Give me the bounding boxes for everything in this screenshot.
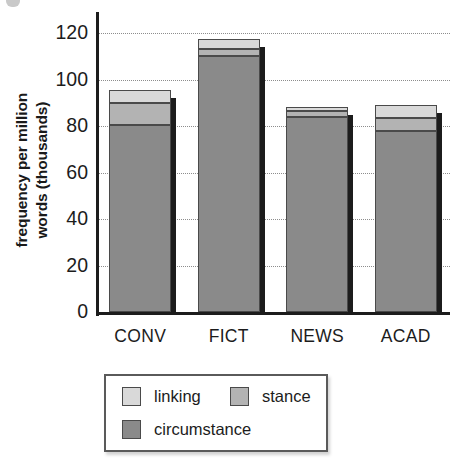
- y-tick-label-100: 100: [40, 70, 88, 90]
- legend-swatch-stance: [230, 387, 249, 406]
- y-tick-label-20: 20: [40, 256, 88, 276]
- bar-segment-conv-stance[interactable]: [109, 103, 171, 125]
- bar-segment-news-linking[interactable]: [286, 107, 348, 110]
- y-tick-label-80: 80: [40, 116, 88, 136]
- legend-item-stance[interactable]: stance: [230, 387, 311, 406]
- y-tick-label-40: 40: [40, 209, 88, 229]
- legend-item-circumstance[interactable]: circumstance: [122, 420, 251, 439]
- legend-label-linking: linking: [154, 387, 201, 406]
- bar-segment-fict-linking[interactable]: [198, 39, 260, 49]
- x-tick-label-fict: FICT: [185, 326, 274, 347]
- bar-segment-acad-stance[interactable]: [375, 118, 437, 131]
- bar-segment-news-stance[interactable]: [286, 111, 348, 117]
- bar-segment-fict-circumstance[interactable]: [198, 56, 260, 312]
- y-tick-label-120: 120: [40, 23, 88, 43]
- x-tick-label-news: NEWS: [273, 326, 362, 347]
- legend-swatch-circumstance: [122, 420, 141, 439]
- bar-segment-conv-circumstance[interactable]: [109, 125, 171, 312]
- x-axis-line: [96, 312, 450, 315]
- bar-segment-news-circumstance[interactable]: [286, 117, 348, 312]
- plot-area: 020406080100120 CONVFICTNEWSACAD: [96, 8, 450, 314]
- gridline-120: [99, 33, 450, 34]
- bar-segment-acad-linking[interactable]: [375, 105, 437, 118]
- legend-item-linking[interactable]: linking: [122, 387, 201, 406]
- bar-fict[interactable]: [198, 39, 260, 312]
- y-tick-label-0: 0: [40, 302, 88, 322]
- bar-segment-conv-linking[interactable]: [109, 90, 171, 103]
- bar-segment-fict-stance[interactable]: [198, 49, 260, 56]
- bar-acad[interactable]: [375, 105, 437, 312]
- x-tick-label-conv: CONV: [96, 326, 185, 347]
- chart-legend: linkingstancecircumstance: [104, 374, 328, 452]
- legend-label-stance: stance: [262, 387, 311, 406]
- bar-segment-acad-circumstance[interactable]: [375, 131, 437, 312]
- legend-label-circumstance: circumstance: [154, 420, 251, 439]
- gridline-100: [99, 80, 450, 81]
- legend-swatch-linking: [122, 387, 141, 406]
- chart-figure: frequency per million words (thousands) …: [0, 0, 454, 468]
- y-tick-label-60: 60: [40, 163, 88, 183]
- bar-news[interactable]: [286, 107, 348, 312]
- bar-conv[interactable]: [109, 90, 171, 312]
- y-axis-line: [96, 12, 99, 316]
- x-tick-label-acad: ACAD: [362, 326, 451, 347]
